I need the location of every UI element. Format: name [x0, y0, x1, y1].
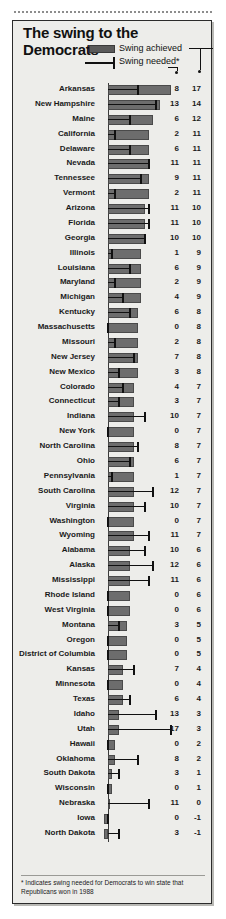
- row-state-label: Florida: [68, 218, 95, 227]
- row-state-label: Colorado: [60, 382, 95, 391]
- table-row: California211: [13, 128, 213, 142]
- row-value-achieved: 2: [183, 739, 201, 748]
- row-value-achieved: 12: [183, 114, 201, 123]
- line-swing-needed: [108, 312, 130, 313]
- marker-swing-needed: [107, 814, 109, 824]
- line-swing-needed: [108, 535, 149, 536]
- row-value-needed: 6: [161, 114, 179, 123]
- bar-swing-achieved: [108, 412, 134, 422]
- table-row: Iowa0-1: [13, 812, 213, 826]
- row-value-needed: 0: [161, 783, 179, 792]
- chart-legend: Swing achieved Swing needed*: [13, 43, 213, 77]
- line-swing-needed: [108, 268, 130, 269]
- marker-swing-needed: [133, 665, 135, 675]
- row-value-needed: 0: [161, 679, 179, 688]
- footnote-divider: [21, 875, 205, 876]
- marker-swing-needed: [107, 636, 109, 646]
- bar-swing-achieved: [108, 591, 130, 601]
- line-swing-needed: [108, 387, 123, 388]
- line-swing-needed: [108, 163, 149, 164]
- row-value-needed: 2: [161, 129, 179, 138]
- table-row: West Virginia06: [13, 604, 213, 618]
- line-swing-needed: [108, 238, 145, 239]
- marker-swing-needed: [118, 368, 120, 378]
- leader-achieved-vertical: [200, 48, 201, 70]
- row-value-needed: 3: [161, 367, 179, 376]
- table-row: Illinois19: [13, 247, 213, 261]
- legend-swatch-achieved: [89, 45, 115, 53]
- row-value-needed: 11: [161, 530, 179, 539]
- marker-swing-needed: [148, 531, 150, 541]
- table-row: Oklahoma82: [13, 753, 213, 767]
- row-value-achieved: 11: [183, 144, 201, 153]
- line-swing-needed: [108, 149, 130, 150]
- row-value-achieved: 11: [183, 173, 201, 182]
- legend-label-achieved: Swing achieved: [119, 43, 182, 53]
- row-value-achieved: 7: [183, 486, 201, 495]
- table-row: Colorado47: [13, 381, 213, 395]
- row-state-label: Alaska: [69, 560, 95, 569]
- table-row: New Mexico38: [13, 366, 213, 380]
- line-swing-needed: [108, 119, 130, 120]
- row-state-label: Georgia: [65, 233, 95, 242]
- table-row: Mississippi116: [13, 574, 213, 588]
- marker-swing-needed: [111, 249, 113, 259]
- line-swing-needed: [108, 357, 134, 358]
- row-value-needed: 0: [161, 516, 179, 525]
- row-value-achieved: 8: [183, 337, 201, 346]
- row-value-needed: 0: [161, 649, 179, 658]
- line-swing-needed: [108, 446, 138, 447]
- row-state-label: Washington: [50, 516, 95, 525]
- row-value-achieved: 3: [183, 709, 201, 718]
- marker-swing-needed: [114, 338, 116, 348]
- row-value-needed: 0: [161, 635, 179, 644]
- line-swing-needed: [108, 461, 130, 462]
- row-state-label: North Carolina: [39, 441, 95, 450]
- marker-swing-needed: [107, 591, 109, 601]
- table-row: Montana35: [13, 619, 213, 633]
- row-state-label: Texas: [73, 694, 95, 703]
- row-value-needed: 11: [161, 158, 179, 167]
- table-row: Washington07: [13, 515, 213, 529]
- marker-swing-needed: [148, 159, 150, 169]
- row-value-achieved: 8: [183, 322, 201, 331]
- bar-swing-achieved: [108, 397, 134, 407]
- bar-swing-achieved: [108, 680, 123, 690]
- marker-swing-needed: [122, 293, 124, 303]
- line-swing-needed: [108, 297, 123, 298]
- marker-swing-needed: [114, 189, 116, 199]
- marker-swing-needed: [107, 784, 109, 794]
- marker-swing-needed: [148, 799, 150, 809]
- row-state-label: Kentucky: [59, 307, 95, 316]
- row-value-achieved: 7: [183, 456, 201, 465]
- row-value-needed: 0: [161, 739, 179, 748]
- bar-swing-achieved: [104, 829, 108, 839]
- row-value-needed: 8: [161, 84, 179, 93]
- row-value-achieved: 7: [183, 501, 201, 510]
- marker-swing-needed: [129, 308, 131, 318]
- marker-swing-needed: [137, 755, 139, 765]
- table-row: North Dakota3-1: [13, 827, 213, 841]
- row-value-achieved: 9: [183, 248, 201, 257]
- row-value-achieved: 9: [183, 263, 201, 272]
- marker-swing-needed: [144, 234, 146, 244]
- marker-swing-needed: [107, 606, 109, 616]
- line-swing-needed: [108, 89, 138, 90]
- row-value-needed: 2: [161, 188, 179, 197]
- leader-needed-arrow-icon: [175, 71, 178, 74]
- row-value-needed: 0: [161, 605, 179, 614]
- row-value-achieved: 7: [183, 530, 201, 539]
- row-value-achieved: 4: [183, 679, 201, 688]
- table-row: New York07: [13, 425, 213, 439]
- table-row: Connecticut37: [13, 395, 213, 409]
- table-row: Arkansas817: [13, 83, 213, 97]
- row-value-achieved: 7: [183, 411, 201, 420]
- row-value-achieved: 7: [183, 396, 201, 405]
- marker-swing-needed: [114, 130, 116, 140]
- row-state-label: Rhode Island: [45, 590, 95, 599]
- row-state-label: Iowa: [77, 813, 95, 822]
- marker-swing-needed: [107, 680, 109, 690]
- marker-swing-needed: [152, 561, 154, 571]
- marker-swing-needed: [107, 517, 109, 527]
- table-row: South Carolina127: [13, 485, 213, 499]
